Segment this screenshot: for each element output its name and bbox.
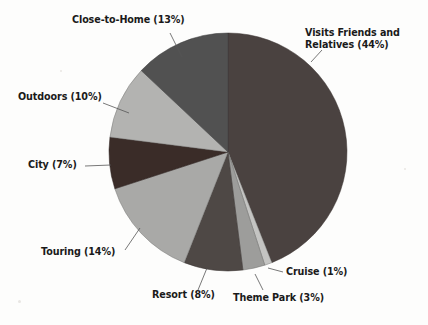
pie-label-theme-park: Theme Park (3%) — [233, 292, 324, 304]
leader-line-visits-friends-and-relatives — [311, 50, 322, 62]
pie-label-touring: Touring (14%) — [41, 246, 115, 258]
leader-line-city — [85, 165, 111, 166]
pie-label-cruise: Cruise (1%) — [286, 266, 347, 278]
scan-speck — [18, 300, 21, 303]
scan-speck — [404, 168, 406, 170]
pie-label-city: City (7%) — [28, 159, 77, 171]
pie-label-outdoors: Outdoors (10%) — [18, 91, 102, 103]
leader-line-touring — [125, 228, 140, 250]
pie-label-close-to-home: Close-to-Home (13%) — [72, 14, 185, 26]
pie-label-resort: Resort (8%) — [152, 289, 215, 301]
leader-line-theme-park — [255, 274, 263, 290]
pie-slices — [109, 33, 347, 271]
leader-line-resort — [198, 268, 207, 290]
leader-line-cruise — [268, 268, 283, 272]
pie-label-vfr-line2: Relatives (44%) — [305, 39, 389, 50]
scan-speck — [60, 70, 62, 72]
pie-label-visits-friends-and-relatives: Visits Friends and Relatives (44%) — [305, 27, 417, 50]
pie-chart-figure: Visits Friends and Relatives (44%) Close… — [0, 0, 428, 325]
pie-label-vfr-line1: Visits Friends and — [305, 27, 400, 38]
